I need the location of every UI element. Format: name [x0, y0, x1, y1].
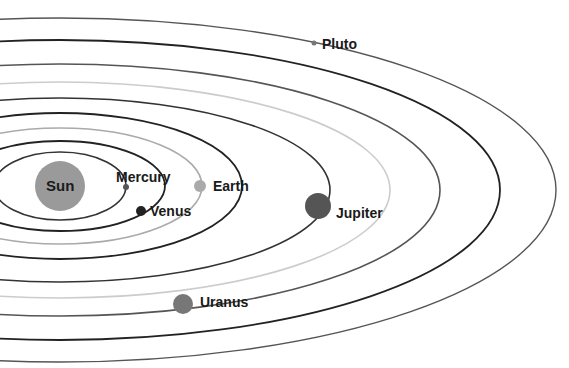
pluto-planet: [312, 41, 317, 46]
jupiter-label: Jupiter: [336, 205, 383, 221]
venus-label: Venus: [150, 203, 191, 219]
sun-label: Sun: [46, 177, 74, 194]
pluto-label: Pluto: [322, 36, 357, 52]
earth-planet: [194, 180, 206, 192]
uranus-label: Uranus: [200, 294, 248, 310]
solar-system-diagram: Sun Mercury Venus Earth Jupiter Uranus P…: [0, 0, 569, 368]
earth-orbit: [0, 128, 202, 244]
jupiter-planet: [305, 193, 331, 219]
orbits-canvas: [0, 0, 569, 368]
mercury-label: Mercury: [116, 169, 170, 185]
earth-label: Earth: [213, 178, 249, 194]
uranus-planet: [173, 294, 193, 314]
venus-planet: [136, 206, 146, 216]
